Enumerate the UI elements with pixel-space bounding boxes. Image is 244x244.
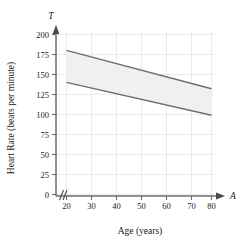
y-axis-variable-label: T <box>48 11 54 21</box>
y-axis <box>53 25 60 196</box>
x-tick-labels: 20 30 40 50 60 70 80 <box>62 201 216 211</box>
x-tick-label: 20 <box>62 201 71 211</box>
x-tick-label: 50 <box>137 201 146 211</box>
y-tick-labels: 200 175 150 125 100 75 50 25 0 <box>36 30 49 200</box>
y-tick-label: 50 <box>41 150 50 160</box>
x-axis-title: Age (years) <box>118 226 163 237</box>
x-tick-label: 60 <box>162 201 171 211</box>
y-tick-label: 175 <box>36 50 49 60</box>
x-tick-label: 30 <box>87 201 96 211</box>
y-tick-label: 25 <box>41 170 50 180</box>
y-tick-label: 150 <box>36 70 49 80</box>
y-axis-title: Heart Rate (beats per minute) <box>6 62 17 174</box>
x-axis-variable-label: A <box>229 191 236 201</box>
axis-break-icon <box>60 190 68 200</box>
x-tick-label: 80 <box>207 201 216 211</box>
y-tick-label: 200 <box>36 30 49 40</box>
x-tick-label: 40 <box>112 201 121 211</box>
y-tick-label: 100 <box>36 110 49 120</box>
heart-rate-chart-figure: 200 175 150 125 100 75 50 25 0 20 30 40 … <box>0 0 244 244</box>
x-tick-label: 70 <box>187 201 196 211</box>
y-tick-label: 0 <box>45 190 49 200</box>
x-axis <box>56 193 225 200</box>
y-tick-label: 75 <box>41 130 50 140</box>
chart-plot-area: 200 175 150 125 100 75 50 25 0 20 30 40 … <box>0 0 244 244</box>
y-tick-label: 125 <box>36 90 49 100</box>
